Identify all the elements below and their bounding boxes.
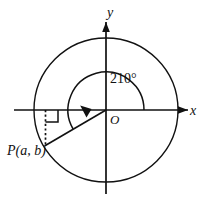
figure-container: x y O 210° P(a, b) [0, 0, 211, 204]
point-p-label: P(a, b) [6, 143, 46, 159]
x-axis-label: x [189, 103, 197, 118]
right-angle-marker [46, 110, 59, 122]
angle-label: 210° [110, 71, 137, 86]
x-axis-arrowhead [178, 106, 188, 114]
unit-circle-diagram: x y O 210° P(a, b) [0, 0, 211, 204]
y-axis-arrowhead [102, 22, 110, 32]
angle-arc-arrowhead [80, 106, 91, 118]
terminal-ray [45, 110, 107, 146]
origin-label: O [110, 112, 120, 127]
y-axis-label: y [105, 5, 114, 20]
